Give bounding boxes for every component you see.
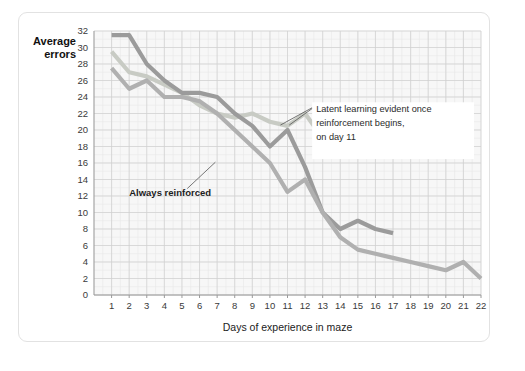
y-axis-tick-labels: 02468101214161820222426283032: [77, 25, 88, 300]
y-tick-label: 10: [77, 207, 88, 218]
x-tick-label: 1: [109, 300, 114, 311]
y-tick-label: 20: [77, 124, 88, 135]
x-tick-label: 6: [197, 300, 202, 311]
x-tick-label: 5: [179, 300, 184, 311]
x-tick-label: 3: [144, 300, 149, 311]
x-tick-label: 10: [265, 300, 276, 311]
x-tick-label: 8: [232, 300, 237, 311]
x-tick-label: 20: [441, 300, 452, 311]
x-tick-label: 15: [353, 300, 364, 311]
x-tick-label: 18: [405, 300, 416, 311]
x-tick-label: 19: [423, 300, 434, 311]
x-axis-tick-labels: 12345678910111213141516171819202122: [109, 300, 486, 311]
y-tick-label: 18: [77, 141, 88, 152]
series-label-always-reinforced: Always reinforced: [129, 187, 211, 198]
y-tick-label: 8: [83, 223, 88, 234]
x-tick-label: 4: [162, 300, 167, 311]
x-tick-label: 7: [214, 300, 219, 311]
x-tick-label: 11: [283, 300, 293, 311]
y-tick-label: 32: [77, 25, 88, 36]
y-tick-label: 16: [77, 157, 88, 168]
y-tick-label: 0: [83, 289, 88, 300]
x-tick-label: 9: [250, 300, 255, 311]
x-tick-label: 17: [388, 300, 399, 311]
x-tick-label: 14: [335, 300, 346, 311]
y-tick-label: 12: [77, 190, 88, 201]
figure-card: 02468101214161820222426283032 1234567891…: [18, 12, 490, 342]
latent-note-line-3: on day 11: [316, 132, 356, 142]
latent-note-line-2: reinforcement begins,: [316, 118, 404, 128]
x-tick-label: 13: [317, 300, 328, 311]
y-tick-label: 28: [77, 58, 88, 69]
y-tick-label: 22: [77, 108, 88, 119]
x-axis-title: Days of experience in maze: [223, 321, 353, 333]
x-tick-label: 12: [300, 300, 311, 311]
y-tick-label: 30: [77, 42, 88, 53]
x-tick-label: 16: [370, 300, 381, 311]
chart-container: 02468101214161820222426283032 1234567891…: [19, 13, 491, 343]
y-axis-title-line-1: Average: [33, 35, 76, 47]
x-tick-label: 2: [127, 300, 132, 311]
x-tick-label: 22: [476, 300, 487, 311]
y-axis-title-line-2: errors: [44, 48, 76, 60]
y-tick-label: 2: [83, 273, 88, 284]
x-tick-label: 21: [458, 300, 469, 311]
y-tick-label: 26: [77, 75, 88, 86]
y-tick-label: 14: [77, 174, 88, 185]
latent-note-line-1: Latent learning evident once: [316, 104, 431, 114]
y-tick-label: 4: [83, 256, 88, 267]
y-tick-label: 24: [77, 91, 88, 102]
y-tick-label: 6: [83, 240, 88, 251]
line-chart: 02468101214161820222426283032 1234567891…: [19, 13, 491, 343]
